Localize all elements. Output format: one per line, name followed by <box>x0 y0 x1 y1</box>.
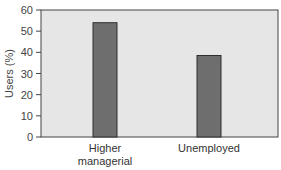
x-category-label: Unemployed <box>178 142 240 154</box>
y-tick-label: 0 <box>27 131 33 143</box>
y-axis-title: Users (%) <box>3 49 15 98</box>
x-category-label: Highermanagerial <box>78 142 132 167</box>
plot-area <box>41 10 278 137</box>
y-tick-label: 40 <box>21 46 33 58</box>
y-tick-label: 10 <box>21 110 33 122</box>
y-tick-label: 20 <box>21 89 33 101</box>
y-tick-label: 30 <box>21 68 33 80</box>
bar <box>93 23 117 137</box>
y-tick-label: 50 <box>21 25 33 37</box>
y-tick-label: 60 <box>21 4 33 16</box>
bar <box>197 56 221 137</box>
bar-chart: 0102030405060 HighermanagerialUnemployed… <box>0 0 281 170</box>
